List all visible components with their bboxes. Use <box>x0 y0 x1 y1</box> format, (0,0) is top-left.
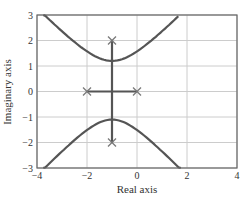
root-locus-plot: −4−2024 −3−2−10123 Real axis Imaginary a… <box>0 0 245 201</box>
y-tick-label: −2 <box>22 137 33 148</box>
x-tick-labels: −4−2024 <box>32 170 240 181</box>
x-axis-label: Real axis <box>117 183 158 195</box>
y-tick-label: 1 <box>28 61 33 72</box>
y-tick-label: −3 <box>22 163 33 174</box>
upper-branch <box>43 15 178 61</box>
y-tick-label: 0 <box>28 86 33 97</box>
y-tick-labels: −3−2−10123 <box>22 10 33 174</box>
x-tick-label: −2 <box>82 170 93 181</box>
y-tick-label: 3 <box>28 10 33 21</box>
y-tick-label: −1 <box>22 112 33 123</box>
x-tick-label: −4 <box>32 170 43 181</box>
x-tick-label: 2 <box>185 170 190 181</box>
y-axis-label: Imaginary axis <box>1 59 13 125</box>
x-tick-label: 0 <box>135 170 140 181</box>
x-tick-label: 4 <box>235 170 240 181</box>
y-tick-label: 2 <box>28 35 33 46</box>
